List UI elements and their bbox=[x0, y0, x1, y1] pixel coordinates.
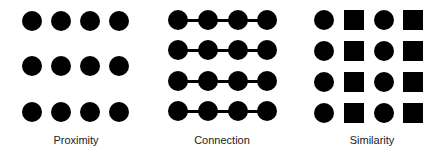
circle-shape bbox=[198, 101, 218, 121]
circle-shape bbox=[228, 40, 248, 60]
circle-shape bbox=[314, 41, 334, 61]
circle-shape bbox=[22, 56, 42, 76]
circle-shape bbox=[51, 56, 71, 76]
circle-shape bbox=[257, 71, 277, 91]
connector-line bbox=[178, 80, 267, 83]
circle-shape bbox=[168, 71, 188, 91]
circle-shape bbox=[374, 103, 394, 123]
circle-shape bbox=[374, 41, 394, 61]
circle-shape bbox=[198, 40, 218, 60]
square-shape bbox=[403, 103, 423, 123]
square-shape bbox=[344, 103, 364, 123]
square-shape bbox=[403, 41, 423, 61]
circle-shape bbox=[374, 10, 394, 30]
connector-line bbox=[178, 49, 267, 52]
connector-line bbox=[178, 110, 267, 113]
circle-shape bbox=[109, 102, 129, 122]
circle-shape bbox=[198, 10, 218, 30]
circle-shape bbox=[257, 101, 277, 121]
circle-shape bbox=[257, 40, 277, 60]
circle-shape bbox=[80, 102, 100, 122]
square-shape bbox=[344, 41, 364, 61]
circle-shape bbox=[257, 10, 277, 30]
square-shape bbox=[344, 10, 364, 30]
square-shape bbox=[403, 10, 423, 30]
square-shape bbox=[403, 72, 423, 92]
label-similarity: Similarity bbox=[312, 134, 432, 146]
circle-shape bbox=[314, 10, 334, 30]
circle-shape bbox=[228, 10, 248, 30]
circle-shape bbox=[51, 11, 71, 31]
circle-shape bbox=[51, 102, 71, 122]
circle-shape bbox=[80, 56, 100, 76]
circle-shape bbox=[314, 72, 334, 92]
label-connection: Connection bbox=[162, 134, 282, 146]
circle-shape bbox=[374, 72, 394, 92]
circle-shape bbox=[80, 11, 100, 31]
circle-shape bbox=[168, 101, 188, 121]
circle-shape bbox=[22, 102, 42, 122]
connector-line bbox=[178, 19, 267, 22]
circle-shape bbox=[314, 103, 334, 123]
circle-shape bbox=[228, 71, 248, 91]
circle-shape bbox=[168, 10, 188, 30]
circle-shape bbox=[198, 71, 218, 91]
square-shape bbox=[344, 72, 364, 92]
circle-shape bbox=[109, 11, 129, 31]
circle-shape bbox=[22, 11, 42, 31]
label-proximity: Proximity bbox=[16, 134, 136, 146]
circle-shape bbox=[228, 101, 248, 121]
circle-shape bbox=[168, 40, 188, 60]
circle-shape bbox=[109, 56, 129, 76]
